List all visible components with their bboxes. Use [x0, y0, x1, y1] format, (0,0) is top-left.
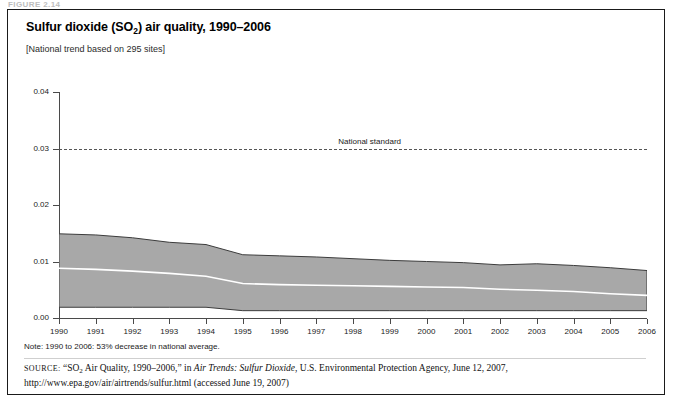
title-text-main: Sulfur dioxide (SO [26, 20, 133, 34]
page-title: Sulfur dioxide (SO2) air quality, 1990–2… [26, 20, 271, 34]
chart-note: Note: 1990 to 2006: 53% decrease in nati… [24, 342, 220, 351]
chart-source: source: “SO2 Air Quality, 1990–2006,” in… [24, 362, 650, 390]
title-text-rest: ) air quality, 1990–2006 [138, 20, 271, 34]
figure-page: FIGURE 2.14 Sulfur dioxide (SO2) air qua… [0, 0, 674, 406]
source-prefix: source: [24, 364, 61, 373]
figure-number-label: FIGURE 2.14 [8, 0, 60, 9]
chart-subtitle: [National trend based on 295 sites] [26, 44, 165, 54]
source-subscript: 2 [79, 367, 83, 375]
figure-frame [7, 9, 665, 395]
source-quote-1: “SO [63, 363, 79, 373]
title-subscript: 2 [133, 26, 138, 36]
source-italic-title: Air Trends: Sulfur Dioxide [194, 363, 295, 373]
footer-divider [24, 358, 646, 359]
source-quote-2: Air Quality, 1990–2006,” in [83, 363, 194, 373]
